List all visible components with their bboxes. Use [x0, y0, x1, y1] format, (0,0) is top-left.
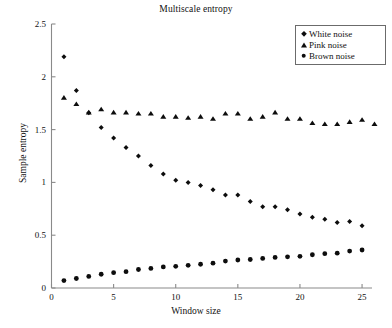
- data-point: [86, 274, 91, 279]
- legend-item-white-noise[interactable]: White noise: [299, 28, 380, 39]
- data-point: [186, 263, 191, 268]
- data-point: [309, 120, 315, 125]
- data-point: [173, 114, 179, 119]
- data-point: [334, 121, 340, 126]
- data-point: [74, 88, 79, 93]
- data-point: [260, 204, 265, 209]
- data-point: [248, 199, 253, 204]
- data-point: [298, 254, 303, 259]
- data-point: [223, 259, 228, 264]
- data-point: [273, 255, 278, 260]
- data-point: [235, 193, 240, 198]
- diamond-marker-icon: [299, 29, 308, 38]
- data-point: [211, 261, 216, 266]
- data-point: [173, 178, 178, 183]
- data-point: [111, 110, 117, 115]
- data-point: [347, 219, 352, 224]
- data-point: [99, 272, 104, 277]
- data-point: [198, 114, 204, 119]
- series-brown-noise: [62, 248, 365, 283]
- data-point: [273, 204, 278, 209]
- x-tick-label: 5: [111, 292, 116, 302]
- data-point: [161, 171, 166, 176]
- data-point: [198, 183, 203, 188]
- legend-item-label: Pink noise: [309, 40, 347, 50]
- data-point: [186, 180, 191, 185]
- data-point: [136, 154, 141, 159]
- data-point: [285, 207, 290, 212]
- data-point: [111, 136, 116, 141]
- chart-legend: White noisePink noiseBrown noise: [295, 25, 386, 65]
- data-point: [99, 125, 104, 130]
- legend-item-pink-noise[interactable]: Pink noise: [299, 39, 380, 50]
- data-point: [322, 217, 327, 222]
- data-point: [135, 111, 141, 116]
- data-point: [247, 116, 253, 121]
- x-tick-label: 10: [171, 292, 180, 302]
- data-point: [235, 258, 240, 263]
- data-point: [160, 114, 166, 119]
- data-point: [335, 251, 340, 256]
- data-point: [185, 115, 191, 120]
- data-point: [310, 215, 315, 220]
- data-point: [371, 121, 377, 126]
- data-point: [148, 163, 153, 168]
- triangle-marker-icon: [299, 40, 308, 49]
- data-point: [61, 95, 67, 100]
- data-point: [248, 257, 253, 262]
- data-point: [297, 116, 303, 121]
- data-point: [86, 110, 92, 115]
- data-point: [124, 269, 129, 274]
- x-tick-label: 20: [295, 292, 304, 302]
- data-point: [136, 267, 141, 272]
- data-point: [347, 119, 353, 124]
- legend-item-label: White noise: [309, 29, 352, 39]
- data-point: [98, 107, 104, 112]
- data-point: [322, 251, 327, 256]
- data-point: [322, 121, 328, 126]
- data-point: [124, 145, 129, 150]
- x-axis-label: Window size: [0, 306, 392, 316]
- series-white-noise: [61, 54, 364, 228]
- x-tick-label: 0: [49, 292, 54, 302]
- y-tick-label: 2.5: [8, 19, 46, 29]
- data-point: [123, 110, 129, 115]
- x-tick-label: 25: [358, 292, 367, 302]
- data-point: [61, 54, 66, 59]
- circle-marker-icon: [299, 51, 308, 60]
- data-point: [285, 254, 290, 259]
- data-point: [161, 264, 166, 269]
- data-point: [260, 114, 266, 119]
- y-tick-label: 2: [8, 72, 46, 82]
- y-axis-label: Sample entropy: [18, 83, 28, 223]
- data-point: [74, 276, 79, 281]
- data-point: [148, 266, 153, 271]
- data-point: [62, 278, 67, 283]
- legend-item-label: Brown noise: [309, 51, 355, 61]
- data-point: [73, 101, 79, 106]
- data-point: [235, 111, 241, 116]
- data-point: [210, 116, 216, 121]
- series-pink-noise: [61, 95, 378, 126]
- data-point: [198, 262, 203, 267]
- data-point: [260, 256, 265, 261]
- y-tick-label: 0: [8, 283, 46, 293]
- data-point: [359, 117, 365, 122]
- data-point: [335, 220, 340, 225]
- data-points: [61, 54, 378, 283]
- data-point: [223, 193, 228, 198]
- data-point: [285, 116, 291, 121]
- data-point: [297, 212, 302, 217]
- data-point: [310, 252, 315, 257]
- data-point: [222, 111, 228, 116]
- y-tick-label: 0.5: [8, 230, 46, 240]
- legend-item-brown-noise[interactable]: Brown noise: [299, 50, 380, 61]
- data-point: [360, 248, 365, 253]
- data-point: [148, 111, 154, 116]
- data-point: [173, 264, 178, 269]
- multiscale-entropy-chart: Multiscale entropy 00.511.522.5 05101520…: [0, 0, 392, 328]
- data-point: [111, 270, 116, 275]
- x-tick-label: 15: [233, 292, 242, 302]
- data-point: [210, 187, 215, 192]
- data-point: [360, 223, 365, 228]
